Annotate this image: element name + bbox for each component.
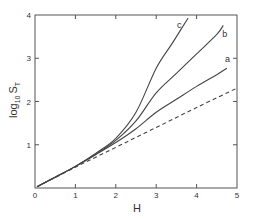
svg-text:log10ST: log10ST (7, 81, 21, 118)
curve-label-b: b (222, 29, 227, 39)
x-axis-title: H (133, 202, 141, 214)
y-tick-label: 1 (27, 141, 32, 150)
curve-label-c: c (177, 20, 182, 30)
y-title-sub: 10 (14, 95, 21, 103)
x-tick-label: 5 (235, 191, 240, 200)
x-tick-label: 1 (73, 191, 78, 200)
curves (37, 18, 237, 187)
plot-frame (35, 15, 237, 188)
y-tick-label: 2 (27, 98, 32, 107)
y-title-var: S (7, 86, 19, 93)
curve-label-a: a (225, 54, 230, 64)
y-axis-title: log10ST (7, 81, 21, 118)
curve-b (37, 25, 223, 186)
x-tick-label: 4 (194, 191, 199, 200)
y-tick-label: 3 (27, 54, 32, 63)
y-axis-ticks: 1234 (27, 11, 237, 150)
x-tick-label: 3 (154, 191, 159, 200)
curve-a (37, 68, 227, 187)
curve-c (37, 18, 188, 187)
curve-dashed (37, 88, 237, 187)
chart: 012345 1234 abc H log10ST (0, 0, 253, 219)
y-tick-label: 4 (27, 11, 32, 20)
x-tick-label: 2 (114, 191, 119, 200)
y-title-log: log (7, 103, 19, 118)
x-tick-label: 0 (33, 191, 38, 200)
y-title-var-sub: T (14, 81, 21, 86)
